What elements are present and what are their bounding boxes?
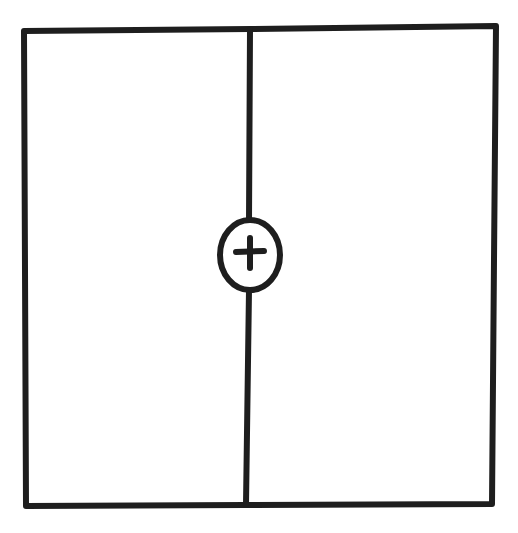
divider-upper <box>249 30 250 220</box>
split-panel-diagram <box>0 0 518 533</box>
right-panel <box>252 32 490 502</box>
left-panel <box>28 34 246 502</box>
divider-lower <box>246 290 249 504</box>
